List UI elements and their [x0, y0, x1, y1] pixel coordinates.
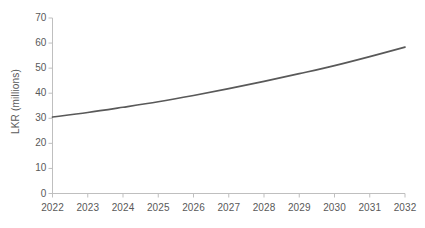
y-axis-tick-label: 30 [21, 113, 47, 123]
x-axis-tick-label: 2023 [70, 203, 106, 213]
y-axis-tick-label: 20 [21, 138, 47, 148]
x-axis-tick-label: 2026 [176, 203, 212, 213]
x-axis-tick-label: 2027 [211, 203, 247, 213]
x-axis-tick-label: 2025 [140, 203, 176, 213]
x-axis-tick-label: 2024 [105, 203, 141, 213]
x-axis-tick-label: 2028 [246, 203, 282, 213]
line-chart: LKR (millions) 010203040506070 202220232… [0, 0, 425, 228]
data-series-line [53, 47, 406, 117]
chart-canvas [0, 0, 425, 228]
x-axis-tick-label: 2029 [281, 203, 317, 213]
y-axis-tick-label: 10 [21, 163, 47, 173]
x-axis-tick-label: 2022 [35, 203, 71, 213]
x-axis-tick-marks [53, 194, 406, 198]
x-axis-tick-label: 2030 [317, 203, 353, 213]
y-axis-tick-label: 0 [21, 189, 47, 199]
y-axis-tick-marks [49, 18, 53, 194]
x-axis-tick-label: 2031 [352, 203, 388, 213]
chart-axes [52, 18, 405, 194]
y-axis-title: LKR (millions) [10, 37, 21, 167]
y-axis-tick-label: 70 [21, 13, 47, 23]
y-axis-tick-label: 60 [21, 38, 47, 48]
y-axis-tick-label: 50 [21, 63, 47, 73]
x-axis-tick-label: 2032 [387, 203, 423, 213]
y-axis-tick-label: 40 [21, 88, 47, 98]
